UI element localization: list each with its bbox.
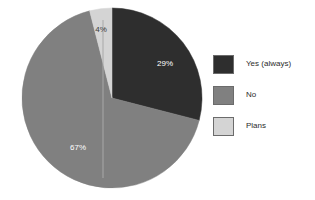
pie-svg: 29% 67% 4% bbox=[0, 0, 215, 200]
pie-slice-value-yes-always: 29% bbox=[157, 59, 173, 68]
chart-legend: Yes (always) No Plans bbox=[213, 54, 313, 146]
legend-swatch-no bbox=[213, 86, 234, 105]
legend-swatch-yes-always bbox=[213, 55, 234, 74]
legend-swatch-plans bbox=[213, 117, 234, 136]
pie-plot-area: 29% 67% 4% bbox=[0, 0, 215, 200]
legend-item-no[interactable]: No bbox=[213, 85, 256, 105]
pie-slice-value-plans: 4% bbox=[95, 25, 107, 34]
legend-item-yes-always[interactable]: Yes (always) bbox=[213, 54, 291, 74]
legend-label-plans: Plans bbox=[246, 122, 266, 130]
pie-slice-value-no: 67% bbox=[70, 143, 86, 152]
legend-label-no: No bbox=[246, 91, 256, 99]
legend-item-plans[interactable]: Plans bbox=[213, 116, 266, 136]
legend-label-yes-always: Yes (always) bbox=[246, 60, 291, 68]
pie-chart-figure: 29% 67% 4% Yes (always) No Plans bbox=[0, 0, 315, 200]
